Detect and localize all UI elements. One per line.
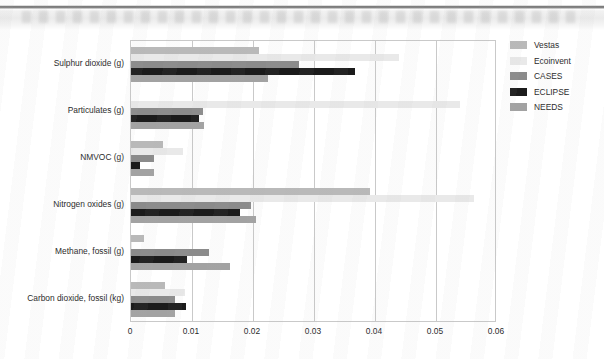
bar-ecoinvent: [131, 242, 132, 249]
bar-cases: [131, 155, 154, 162]
x-axis-tick: 0.05: [427, 326, 443, 336]
legend-label: Vestas: [534, 40, 559, 50]
y-axis-label: NMVOC (g): [0, 153, 124, 162]
bar-cases: [131, 61, 299, 68]
legend-item[interactable]: Vestas: [510, 38, 602, 52]
bar-vestas: [131, 235, 144, 242]
x-axis-tick: 0.06: [488, 326, 504, 336]
legend-label: NEEDS: [534, 102, 563, 112]
bar-vestas: [131, 47, 259, 54]
legend-label: CASES: [534, 71, 562, 81]
page-header-band: [0, 0, 604, 30]
bar-ecoinvent: [131, 195, 474, 202]
y-axis-label: Methane, fossil (g): [0, 247, 124, 256]
bar-group: [131, 182, 495, 229]
legend-swatch-icon: [510, 88, 527, 96]
bar-eclipse: [131, 303, 186, 310]
bar-ecoinvent: [131, 148, 183, 155]
y-axis-label: Sulphur dioxide (g): [0, 59, 124, 68]
legend-item[interactable]: Ecoinvent: [510, 54, 602, 68]
chart-legend: VestasEcoinventCASESECLIPSENEEDS: [510, 38, 602, 116]
bar-cases: [131, 202, 251, 209]
x-axis-tick: 0.02: [244, 326, 260, 336]
bar-eclipse: [131, 162, 140, 169]
bar-ecoinvent: [131, 101, 460, 108]
bar-vestas: [131, 282, 165, 289]
x-axis-tick: 0.04: [366, 326, 382, 336]
legend-item[interactable]: CASES: [510, 69, 602, 83]
legend-label: ECLIPSE: [534, 87, 569, 97]
bar-group: [131, 229, 495, 276]
legend-swatch-icon: [510, 57, 527, 65]
bar-ecoinvent: [131, 54, 399, 61]
x-axis-tick: 0.01: [183, 326, 199, 336]
bar-needs: [131, 122, 204, 129]
plot-area: [130, 40, 496, 322]
y-axis-label: Carbon dioxide, fossil (kg): [0, 294, 124, 303]
bar-needs: [131, 169, 154, 176]
bar-eclipse: [131, 209, 240, 216]
bar-vestas: [131, 141, 163, 148]
bar-needs: [131, 263, 230, 270]
bar-group: [131, 41, 495, 88]
bar-ecoinvent: [131, 289, 185, 296]
legend-item[interactable]: ECLIPSE: [510, 85, 602, 99]
bar-eclipse: [131, 256, 187, 263]
bar-cases: [131, 249, 209, 256]
header-text-smudge: [22, 11, 582, 23]
x-axis-tick: 0: [128, 326, 133, 336]
legend-swatch-icon: [510, 41, 527, 49]
bar-eclipse: [131, 68, 355, 75]
bar-needs: [131, 310, 175, 317]
bar-group: [131, 276, 495, 323]
bar-vestas: [131, 188, 370, 195]
bar-group: [131, 88, 495, 135]
chart-container: Sulphur dioxide (g)Particulates (g)NMVOC…: [0, 30, 604, 359]
legend-swatch-icon: [510, 72, 527, 80]
y-axis-label: Particulates (g): [0, 106, 124, 115]
bar-cases: [131, 296, 175, 303]
bar-cases: [131, 108, 203, 115]
bar-group: [131, 135, 495, 182]
y-axis-label: Nitrogen oxides (g): [0, 200, 124, 209]
x-axis-tick: 0.03: [305, 326, 321, 336]
bar-eclipse: [131, 115, 199, 122]
bar-needs: [131, 216, 256, 223]
legend-item[interactable]: NEEDS: [510, 100, 602, 114]
legend-label: Ecoinvent: [534, 56, 571, 66]
legend-swatch-icon: [510, 103, 527, 111]
bar-needs: [131, 75, 268, 82]
